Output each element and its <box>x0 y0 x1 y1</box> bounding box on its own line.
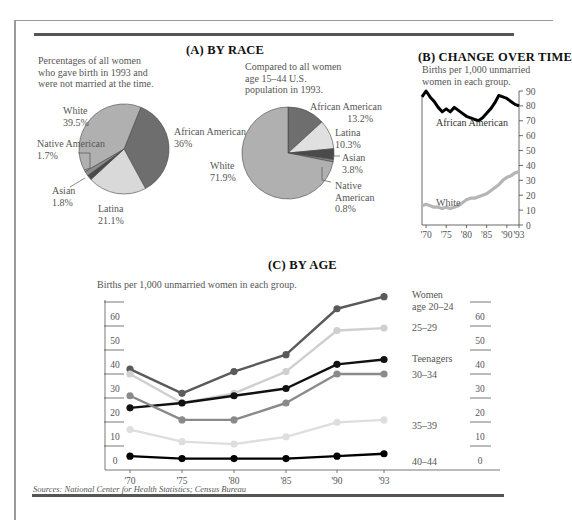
svg-text:'90: '90 <box>331 476 342 486</box>
bottom-rule <box>32 494 504 497</box>
svg-text:50: 50 <box>475 336 485 346</box>
series-40-44 <box>126 450 387 462</box>
svg-text:20: 20 <box>475 408 485 418</box>
series-women-age-20-24 <box>126 293 387 397</box>
svg-text:0: 0 <box>113 456 118 466</box>
series-35-39 <box>126 416 387 447</box>
svg-text:10: 10 <box>475 432 485 442</box>
series-30-34 <box>126 370 387 423</box>
panelc-label-40-44: 40–44 <box>412 456 437 468</box>
panelc-label-30-34: 30–34 <box>412 369 437 381</box>
svg-text:30: 30 <box>475 384 485 394</box>
svg-text:30: 30 <box>110 384 120 394</box>
panelc-label-20-24: Womenage 20–24 <box>412 289 453 312</box>
sources-note: Sources: National Center for Health Stat… <box>33 484 246 494</box>
svg-text:20: 20 <box>110 408 120 418</box>
svg-text:'93: '93 <box>378 476 389 486</box>
panelc-label-25-29: 25–29 <box>412 322 437 334</box>
svg-text:0: 0 <box>478 456 483 466</box>
svg-text:'85: '85 <box>280 476 291 486</box>
svg-text:50: 50 <box>110 336 120 346</box>
svg-text:60: 60 <box>110 312 120 322</box>
panelc-label-35-39: 35–39 <box>412 420 437 432</box>
series-25-29 <box>126 324 387 406</box>
svg-text:60: 60 <box>475 312 485 322</box>
panelc-label-teenagers: Teenagers <box>412 353 452 365</box>
svg-text:10: 10 <box>110 432 120 442</box>
svg-text:40: 40 <box>475 360 485 370</box>
svg-text:40: 40 <box>110 360 120 370</box>
